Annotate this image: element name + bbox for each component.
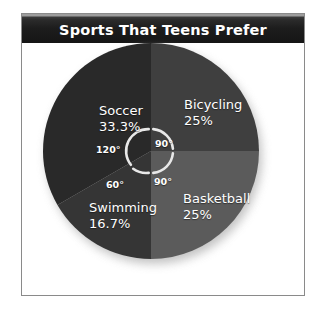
slice-label-soccer: Soccer 33.3% xyxy=(99,103,143,134)
slice-label-basketball-value: 25% xyxy=(183,207,250,223)
pie-svg xyxy=(43,43,265,265)
angle-label-soccer: 120° xyxy=(96,144,121,155)
slice-label-soccer-value: 33.3% xyxy=(99,119,143,135)
slice-label-bicycling-value: 25% xyxy=(184,113,242,129)
plot-area: Soccer 33.3% Bicycling 25% Basketball 25… xyxy=(22,43,304,295)
slice-label-swimming: Swimming 16.7% xyxy=(89,200,157,231)
chart-title-bar: Sports That Teens Prefer xyxy=(22,14,304,43)
angle-label-bicycling: 90° xyxy=(155,138,173,149)
chart-title: Sports That Teens Prefer xyxy=(22,14,304,43)
angle-label-swimming: 60° xyxy=(106,179,124,190)
angle-label-basketball: 90° xyxy=(154,176,172,187)
slice-label-swimming-name: Swimming xyxy=(89,200,157,216)
slice-label-swimming-value: 16.7% xyxy=(89,216,157,232)
slice-label-bicycling: Bicycling 25% xyxy=(184,97,242,128)
slice-label-basketball-name: Basketball xyxy=(183,191,250,207)
slice-label-bicycling-name: Bicycling xyxy=(184,97,242,113)
chart-frame: Sports That Teens Prefer xyxy=(21,13,305,296)
slice-label-basketball: Basketball 25% xyxy=(183,191,250,222)
pie-chart: Soccer 33.3% Bicycling 25% Basketball 25… xyxy=(43,43,265,265)
slice-label-soccer-name: Soccer xyxy=(99,103,143,119)
